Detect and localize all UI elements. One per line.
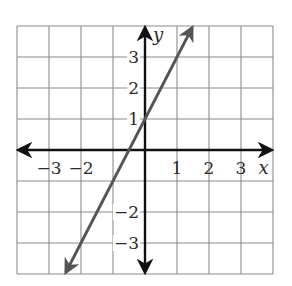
x-tick-label: −3 [36,158,61,178]
x-tick-label: 2 [204,158,215,178]
y-tick-label: 2 [128,78,139,98]
y-tick-label: 3 [128,47,139,67]
x-tick-labels: −3−2123 [36,158,246,178]
y-tick-label: −3 [114,233,139,253]
x-tick-label: 1 [172,158,183,178]
y-axis-label: y [152,24,164,45]
coordinate-graph: x y −3−2123 321−2−3 [0,0,292,286]
x-tick-label: −2 [68,158,93,178]
x-tick-label: 3 [236,158,247,178]
y-tick-label: −2 [114,202,139,222]
y-tick-label: 1 [128,109,139,129]
x-axis-label: x [259,157,269,178]
y-axis: y [145,24,164,272]
